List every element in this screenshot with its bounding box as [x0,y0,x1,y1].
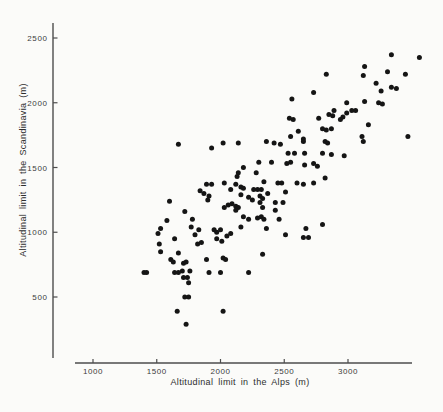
data-point [273,208,278,213]
data-point [260,205,265,210]
data-point [330,113,335,118]
data-point [238,225,243,230]
data-point [187,269,192,274]
data-point [209,146,214,151]
data-point [405,134,410,139]
data-point [303,226,308,231]
data-point [241,214,246,219]
data-point [184,260,189,265]
data-point [301,139,306,144]
data-point [176,251,181,256]
data-point [283,232,288,237]
data-point [360,134,365,139]
data-point [380,102,385,107]
data-point [338,117,343,122]
data-point [204,182,209,187]
data-point [315,164,320,169]
data-point [278,142,283,147]
data-point [230,201,235,206]
data-point [273,200,278,205]
data-point [241,186,246,191]
data-point [222,181,227,186]
x-tick-label: 1500 [147,367,167,376]
data-point [374,81,379,86]
data-point [186,295,191,300]
axis-ticks [53,38,348,363]
data-point [320,222,325,227]
data-point [167,199,172,204]
data-point [219,239,224,244]
data-point [417,55,422,60]
data-point [207,270,212,275]
data-point [324,72,329,77]
data-point [269,160,274,165]
data-point [295,181,300,186]
data-point [325,140,330,145]
data-point [279,181,284,186]
data-point [260,252,265,257]
data-point [264,226,269,231]
data-point [158,226,163,231]
data-point [366,122,371,127]
y-tick-label: 2500 [27,34,47,43]
data-point [323,175,328,180]
data-point [286,151,291,156]
data-point [157,241,162,246]
data-point [344,111,349,116]
data-point [228,231,233,236]
y-tick-label: 1500 [27,164,47,173]
data-point [320,151,325,156]
data-point [361,139,366,144]
data-point [329,152,334,157]
data-point [329,126,334,131]
x-tick-label: 1000 [83,367,103,376]
data-point [258,200,263,205]
data-point [222,205,227,210]
data-point [156,231,161,236]
data-point [190,217,195,222]
data-point [189,225,194,230]
data-point [185,275,190,280]
data-point [164,218,169,223]
data-point [261,179,266,184]
data-point [361,73,366,78]
data-point [342,153,347,158]
axis-tick-labels: 500100015002000250010001500200025003000 [27,34,358,376]
data-point [362,99,367,104]
data-point [204,257,209,262]
data-point [254,170,259,175]
data-point [158,249,163,254]
data-point [389,85,394,90]
data-point [265,191,270,196]
data-point [302,151,307,156]
data-point [306,235,311,240]
data-point [302,162,307,167]
data-point [241,165,246,170]
data-point [250,197,255,202]
data-point [362,64,367,69]
data-point [233,182,238,187]
data-point [316,116,321,121]
data-points [142,52,422,326]
data-point [175,309,180,314]
data-point [228,187,233,192]
data-point [311,90,316,95]
data-point [311,181,316,186]
y-tick-label: 2000 [27,99,47,108]
data-point [172,236,177,241]
data-point [291,117,296,122]
data-point [259,187,264,192]
data-point [288,160,293,165]
y-tick-label: 500 [32,293,47,302]
data-point [236,170,241,175]
data-point [199,240,204,245]
data-point [379,89,384,94]
data-point [288,134,293,139]
data-point [221,309,226,314]
data-point [272,140,277,145]
axes [53,23,412,363]
data-point [246,270,251,275]
data-point [292,151,297,156]
x-tick-label: 2500 [274,367,294,376]
data-point [301,182,306,187]
